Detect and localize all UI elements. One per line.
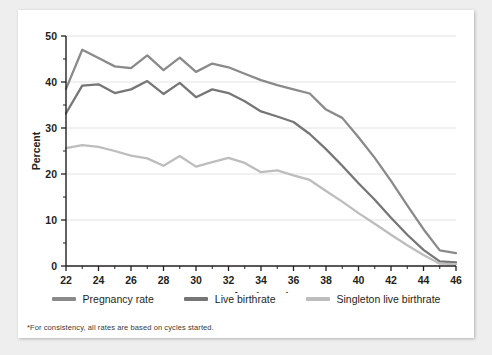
x-tick-label: 42 [385,274,397,286]
chart-legend: Pregnancy rateLive birthrateSingleton li… [18,293,474,305]
y-tick-label: 40 [45,76,57,88]
series-line [66,145,456,264]
y-tick-label: 0 [51,260,57,272]
legend-item[interactable]: Pregnancy rate [52,293,154,305]
legend-label: Live birthrate [215,293,276,305]
series-line [66,50,456,253]
x-tick-label: 34 [255,274,267,286]
legend-swatch [184,297,208,301]
axis-labels: 0102030405022242628303234363840424446Age… [30,30,462,293]
legend-swatch [52,297,76,301]
y-tick-label: 30 [45,122,57,134]
figure-card: 0102030405022242628303234363840424446Age… [18,10,474,338]
legend-swatch [306,297,330,301]
footnote: *For consistency, all rates are based on… [27,323,214,332]
x-tick-label: 26 [125,274,137,286]
legend-label: Singleton live birthrate [337,293,441,305]
x-tick-label: 40 [353,274,365,286]
legend-label: Pregnancy rate [83,293,154,305]
x-tick-label: 38 [320,274,332,286]
x-tick-label: 44 [418,274,430,286]
x-tick-label: 28 [158,274,170,286]
x-tick-label: 30 [190,274,202,286]
x-tick-label: 32 [223,274,235,286]
y-tick-label: 20 [45,168,57,180]
y-tick-label: 10 [45,214,57,226]
x-tick-label: 24 [93,274,105,286]
y-tick-label: 50 [45,30,57,42]
x-tick-label: 46 [450,274,462,286]
legend-item[interactable]: Singleton live birthrate [306,293,441,305]
x-tick-label: 36 [288,274,300,286]
x-tick-label: 22 [60,274,72,286]
legend-item[interactable]: Live birthrate [184,293,276,305]
line-chart: 0102030405022242628303234363840424446Age… [18,10,474,293]
y-axis-title: Percent [30,131,42,170]
